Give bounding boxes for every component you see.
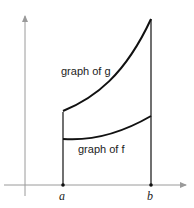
graph-f-curve	[63, 116, 151, 139]
graph-g-label: graph of g	[61, 65, 111, 77]
point-b-label: b	[147, 189, 153, 203]
area-between-curves-diagram: graph of g graph of f a b	[0, 0, 194, 208]
graph-f-label: graph of f	[78, 143, 125, 155]
point-a-dot	[61, 183, 65, 187]
point-b-dot	[149, 183, 153, 187]
point-a-label: a	[59, 189, 65, 203]
